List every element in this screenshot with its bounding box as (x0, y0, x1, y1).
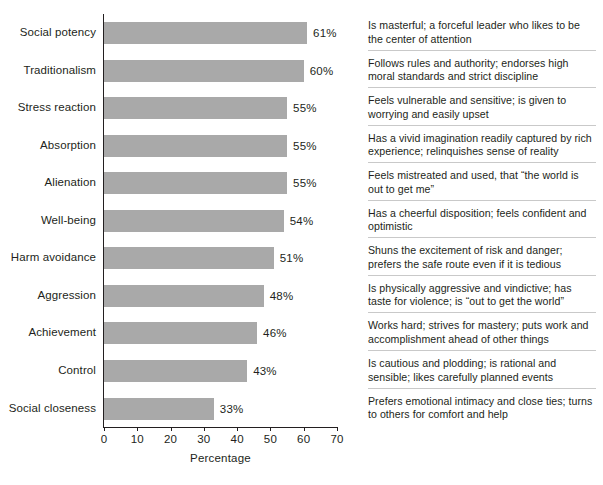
trait-description: Is physically aggressive and vindictive;… (368, 282, 595, 309)
description-separator (368, 50, 596, 51)
bar-value-label: 55% (293, 97, 317, 119)
x-axis-tick-label: 50 (255, 433, 285, 445)
category-label: Stress reaction (0, 89, 96, 127)
x-axis-tick-label: 70 (322, 433, 352, 445)
x-axis-tick-label: 40 (222, 433, 252, 445)
bar-value-label: 54% (290, 210, 314, 232)
bar-value-label: 46% (263, 322, 287, 344)
bar (104, 22, 307, 44)
category-label: Control (0, 352, 96, 390)
trait-description: Has a vivid imagination readily captured… (368, 132, 595, 159)
x-axis-tick (104, 427, 105, 431)
category-label: Alienation (0, 164, 96, 202)
x-axis-tick-label: 60 (289, 433, 319, 445)
chart-row: Achievement46%Works hard; strives for ma… (0, 314, 603, 352)
chart-row: Absorption55%Has a vivid imagination rea… (0, 127, 603, 165)
x-axis-tick-label: 10 (122, 433, 152, 445)
trait-description: Works hard; strives for mastery; puts wo… (368, 319, 595, 346)
description-separator (368, 237, 596, 238)
chart-row: Stress reaction55%Feels vulnerable and s… (0, 89, 603, 127)
bar-value-label: 33% (220, 398, 244, 420)
description-separator (368, 275, 596, 276)
bar (104, 285, 264, 307)
bar-chart: Social potency61%Is masterful; a forcefu… (0, 0, 603, 485)
bar (104, 135, 287, 157)
description-separator (368, 350, 596, 351)
category-label: Social potency (0, 14, 96, 52)
x-axis-title: Percentage (104, 452, 337, 464)
description-separator (368, 125, 596, 126)
chart-row: Traditionalism60%Follows rules and autho… (0, 52, 603, 90)
x-axis-tick (270, 427, 271, 431)
x-axis-tick-label: 30 (189, 433, 219, 445)
trait-description: Is masterful; a forceful leader who like… (368, 19, 595, 46)
trait-description: Feels mistreated and used, that “the wor… (368, 169, 595, 196)
trait-description: Shuns the excitement of risk and danger;… (368, 244, 595, 271)
x-axis-tick-label: 20 (156, 433, 186, 445)
description-separator (368, 388, 596, 389)
chart-row: Control43%Is cautious and plodding; is r… (0, 352, 603, 390)
trait-description: Has a cheerful disposition; feels confid… (368, 207, 595, 234)
bar-value-label: 51% (280, 247, 304, 269)
description-separator (368, 200, 596, 201)
trait-description: Is cautious and plodding; is rational an… (368, 357, 595, 384)
description-separator (368, 312, 596, 313)
bar-value-label: 48% (270, 285, 294, 307)
bar-value-label: 60% (310, 60, 334, 82)
bar (104, 322, 257, 344)
chart-row: Aggression48%Is physically aggressive an… (0, 277, 603, 315)
trait-description: Feels vulnerable and sensitive; is given… (368, 94, 595, 121)
category-label: Absorption (0, 127, 96, 165)
chart-row: Social closeness33%Prefers emotional int… (0, 390, 603, 428)
bar (104, 210, 284, 232)
bar (104, 172, 287, 194)
category-label: Achievement (0, 314, 96, 352)
trait-description: Follows rules and authority; endorses hi… (368, 57, 595, 84)
x-axis-tick (171, 427, 172, 431)
chart-row: Alienation55%Feels mistreated and used, … (0, 164, 603, 202)
x-axis-tick (204, 427, 205, 431)
chart-row: Well-being54%Has a cheerful disposition;… (0, 202, 603, 240)
bar-value-label: 55% (293, 172, 317, 194)
category-label: Traditionalism (0, 52, 96, 90)
category-label: Harm avoidance (0, 239, 96, 277)
bar (104, 247, 274, 269)
bar (104, 97, 287, 119)
description-separator (368, 162, 596, 163)
bar (104, 360, 247, 382)
chart-row: Harm avoidance51%Shuns the excitement of… (0, 239, 603, 277)
x-axis-tick (304, 427, 305, 431)
bar (104, 60, 304, 82)
x-axis-tick (237, 427, 238, 431)
x-axis-tick (137, 427, 138, 431)
bar (104, 398, 214, 420)
description-separator (368, 87, 596, 88)
category-label: Social closeness (0, 390, 96, 428)
x-axis-tick-label: 0 (89, 433, 119, 445)
bar-value-label: 55% (293, 135, 317, 157)
chart-row: Social potency61%Is masterful; a forcefu… (0, 14, 603, 52)
bar-value-label: 61% (313, 22, 337, 44)
category-label: Well-being (0, 202, 96, 240)
trait-description: Prefers emotional intimacy and close tie… (368, 395, 595, 422)
bar-value-label: 43% (253, 360, 277, 382)
x-axis-tick (337, 427, 338, 431)
category-label: Aggression (0, 277, 96, 315)
